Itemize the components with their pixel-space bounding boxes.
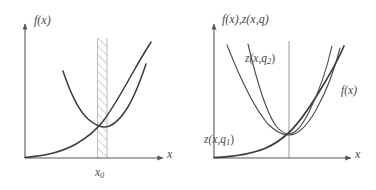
y-axis-label-left: f(x) <box>34 14 51 26</box>
panel-left: f(x) x x0 <box>0 0 188 190</box>
curve-label-zxq1-tail: ) <box>230 133 234 145</box>
curve-label-fx: f(x) <box>341 85 357 97</box>
curve-label-zxq1: z(x,q1) <box>204 134 234 147</box>
x-axis-label-right: x <box>355 148 360 160</box>
hatched-region <box>98 38 108 158</box>
curve-label-zxq2-base: z(x,q <box>245 52 267 64</box>
curve-label-zxq1-base: z(x,q <box>204 133 226 145</box>
x0-tick-label: x0 <box>95 167 104 180</box>
y-axis-label-right: f(x),z(x,q) <box>222 13 269 25</box>
panel-left-plot <box>0 0 188 190</box>
curve-label-zxq2: z(x,q2) <box>245 53 275 66</box>
figure-container: f(x) x x0 f(x),z(x,q) z(x,q2 <box>0 0 376 190</box>
curve-label-zxq2-tail: ) <box>271 52 275 64</box>
curve-zxq1-right <box>227 45 340 135</box>
x0-subscript: 0 <box>100 171 104 180</box>
x-axis-label-left: x <box>167 148 172 160</box>
panel-right: f(x),z(x,q) z(x,q2) z(x,q1) f(x) x <box>188 0 376 190</box>
